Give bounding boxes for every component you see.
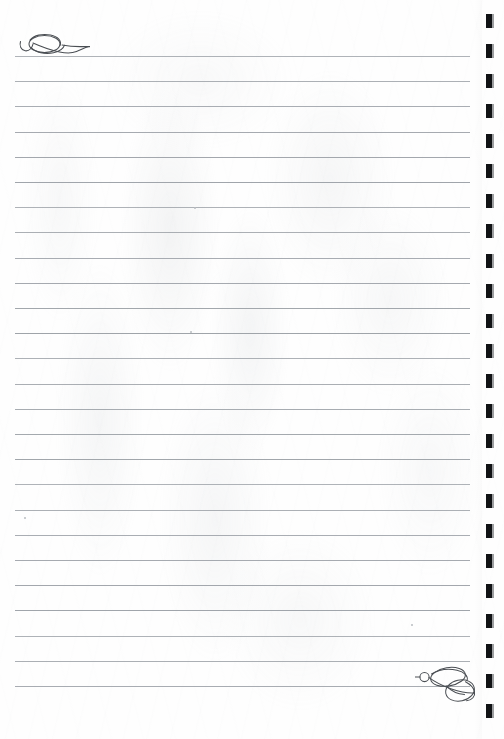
stationery-page [0, 0, 504, 739]
paper-surface [0, 0, 504, 739]
